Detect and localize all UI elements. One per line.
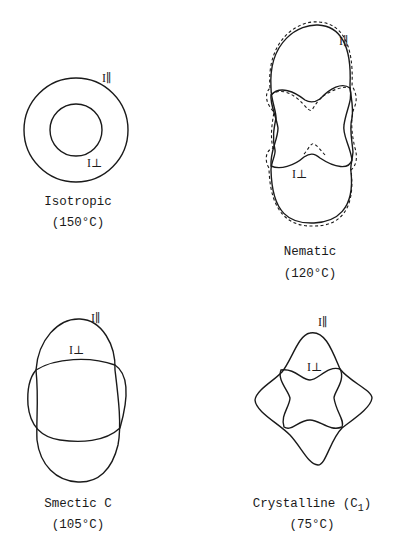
smectic-perpendicular-curve [28, 359, 126, 441]
crystalline-title-end: ) [364, 497, 372, 511]
nematic-perpendicular-curve [271, 86, 352, 168]
smectic-temperature: (105°C) [52, 518, 105, 532]
smectic-label-perpendicular: I⊥ [69, 343, 84, 357]
crystalline-perpendicular-curve [280, 368, 342, 428]
isotropic-perpendicular-curve [50, 104, 102, 156]
nematic-label-perpendicular: I⊥ [292, 167, 307, 181]
nematic-parallel-fit-curve [266, 22, 356, 226]
nematic-label-parallel: I∥ [339, 34, 349, 48]
panel-nematic: I∥ I⊥ Nematic (120°C) [266, 22, 356, 281]
crystalline-temperature: (75°C) [289, 518, 334, 532]
crystalline-label-perpendicular: I⊥ [307, 360, 322, 374]
nematic-title: Nematic [284, 245, 337, 259]
panel-smectic-c: I∥ I⊥ Smectic C (105°C) [28, 311, 126, 532]
smectic-title: Smectic C [44, 497, 112, 511]
isotropic-label-perpendicular: I⊥ [87, 156, 102, 170]
smectic-label-parallel: I∥ [91, 311, 101, 325]
crystalline-parallel-curve [255, 333, 372, 465]
panel-isotropic: I∥ I⊥ Isotropic (150°C) [24, 71, 128, 230]
crystalline-title-main: Crystalline (C [253, 497, 358, 511]
isotropic-temperature: (150°C) [52, 216, 105, 230]
polar-diagram-figure: I∥ I⊥ Isotropic (150°C) I∥ I⊥ Nematic (1… [0, 0, 398, 551]
crystalline-title: Crystalline (C1) [253, 497, 372, 514]
nematic-parallel-curve [271, 25, 353, 223]
isotropic-title: Isotropic [44, 195, 112, 209]
panel-crystalline: I∥ I⊥ Crystalline (C1) (75°C) [253, 315, 372, 532]
nematic-temperature: (120°C) [284, 267, 337, 281]
crystalline-label-parallel: I∥ [318, 315, 328, 329]
nematic-perpendicular-fit-curve [271, 87, 350, 156]
isotropic-parallel-curve [24, 78, 128, 182]
isotropic-label-parallel: I∥ [102, 71, 112, 85]
